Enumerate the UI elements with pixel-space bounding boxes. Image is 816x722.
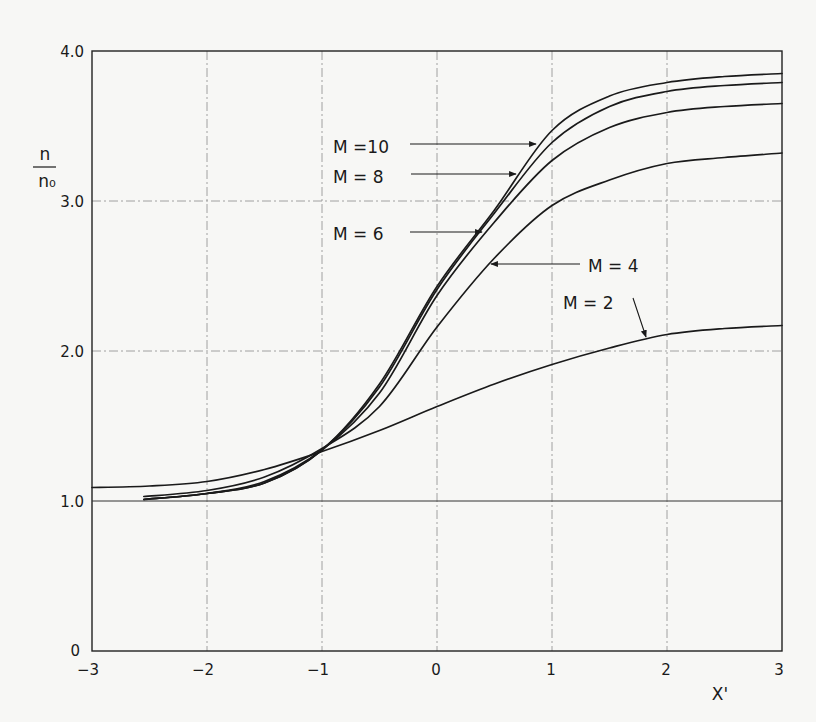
x-tick-label: 0 [431, 661, 441, 679]
label-m4: M = 4 [588, 256, 639, 276]
label-m6: M = 6 [333, 224, 384, 244]
y-tick-label: 2.0 [60, 343, 84, 361]
y-tick-label: 4.0 [60, 43, 84, 61]
y-tick-label: 3.0 [60, 193, 84, 211]
curve-m8 [144, 83, 782, 500]
chart: 4.0 3.0 2.0 1.0 0 −3 −2 −1 0 1 2 3 X' n … [0, 0, 816, 722]
curve-m6 [144, 104, 782, 500]
label-m2: M = 2 [563, 293, 614, 313]
label-m8: M = 8 [333, 167, 384, 187]
x-tick-label: 1 [546, 661, 556, 679]
label-m10: M =10 [333, 137, 389, 157]
x-tick-label: −2 [192, 661, 214, 679]
x-tick-label: 3 [774, 661, 784, 679]
x-tick-label: −3 [77, 661, 99, 679]
curve-m10 [144, 74, 782, 500]
x-tick-label: 2 [661, 661, 671, 679]
x-axis-label: X' [712, 684, 728, 704]
y-axis-label-denominator: n₀ [38, 171, 56, 191]
y-tick-label: 1.0 [60, 493, 84, 511]
gridlines [92, 51, 782, 651]
y-axis-label-numerator: n [40, 144, 51, 164]
x-tick-label: −1 [307, 661, 329, 679]
y-tick-label: 0 [70, 642, 80, 660]
leader-arrow-m2 [633, 298, 646, 337]
curve-m4 [144, 153, 782, 497]
